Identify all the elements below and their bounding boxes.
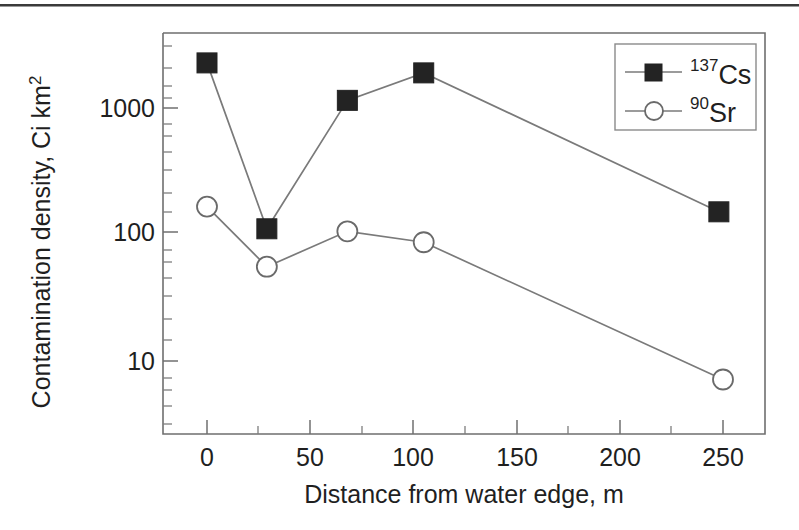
x-tick-label: 50 — [296, 443, 324, 471]
contamination-density-chart: 1000 100 10 Contamination density, Ci km… — [0, 0, 799, 530]
y-axis-ticks — [163, 46, 178, 424]
legend: 137Cs 90Sr — [615, 44, 756, 130]
series-line-sr — [207, 207, 723, 380]
data-point-open-circle[interactable] — [414, 232, 434, 252]
legend-label-cs-element: Cs — [718, 60, 751, 90]
data-point-filled-square[interactable] — [414, 63, 434, 83]
x-tick-label: 200 — [599, 443, 641, 471]
x-tick-label: 0 — [200, 443, 214, 471]
y-tick-label: 100 — [113, 218, 155, 246]
data-point-filled-square[interactable] — [197, 53, 217, 73]
data-point-open-circle[interactable] — [197, 197, 217, 217]
legend-marker-open-circle — [645, 102, 663, 120]
figure-canvas: 1000 100 10 Contamination density, Ci km… — [0, 0, 799, 530]
svg-text:Contamination density, Ci km2: Contamination density, Ci km2 — [26, 76, 55, 409]
y-axis-title-exponent: 2 — [26, 76, 45, 85]
legend-label-sr-mass-number: 90 — [690, 94, 709, 113]
legend-marker-filled-square — [645, 64, 662, 81]
x-axis-title: Distance from water edge, m — [304, 480, 624, 508]
y-axis-title-text: Contamination density, Ci km — [27, 85, 55, 408]
data-point-filled-square[interactable] — [257, 219, 277, 239]
x-tick-label: 150 — [496, 443, 538, 471]
data-point-open-circle[interactable] — [713, 370, 733, 390]
series-sr — [197, 197, 733, 390]
y-axis-title: Contamination density, Ci km2 — [26, 76, 55, 409]
data-point-filled-square[interactable] — [337, 90, 357, 110]
x-tick-label: 250 — [702, 443, 744, 471]
x-axis-tick-labels: 0 50 100 150 200 250 — [200, 443, 744, 471]
data-point-filled-square[interactable] — [709, 202, 729, 222]
legend-label-cs-mass-number: 137 — [690, 56, 718, 75]
data-point-open-circle[interactable] — [257, 257, 277, 277]
x-tick-label: 100 — [392, 443, 434, 471]
legend-label-sr-element: Sr — [709, 98, 736, 128]
data-point-open-circle[interactable] — [337, 221, 357, 241]
y-tick-label: 10 — [127, 347, 155, 375]
y-tick-label: 1000 — [99, 94, 155, 122]
x-axis-ticks — [207, 420, 723, 434]
y-axis-tick-labels: 1000 100 10 — [99, 94, 155, 375]
